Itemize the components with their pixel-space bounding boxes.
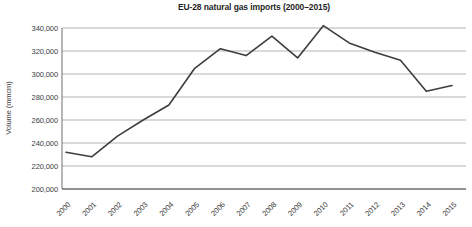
y-tick-label: 280,000 [32, 93, 58, 102]
chart-title: EU-28 natural gas imports (2000–2015) [52, 2, 456, 12]
y-tick-label: 320,000 [32, 47, 58, 56]
x-tick-label: 2012 [363, 200, 381, 218]
y-tick-label: 220,000 [32, 162, 58, 171]
x-tick-label: 2001 [80, 200, 98, 218]
y-tick-label: 260,000 [32, 116, 58, 125]
y-tick-label: 300,000 [32, 70, 58, 79]
x-tick-label: 2006 [209, 200, 227, 218]
x-tick-label: 2011 [338, 200, 355, 217]
x-tick-label: 2004 [157, 200, 175, 218]
x-tick-label: 2010 [312, 200, 330, 218]
y-axis-title: Volume (mmcm) [4, 53, 14, 163]
chart-container: EU-28 natural gas imports (2000–2015) Vo… [0, 0, 472, 227]
y-tick-label: 200,000 [32, 185, 58, 194]
x-tick-label: 2013 [389, 200, 407, 218]
x-tick-label: 2000 [55, 200, 73, 218]
x-tick-label: 2002 [106, 200, 124, 218]
x-tick-label: 2008 [260, 200, 278, 218]
x-tick-label: 2009 [286, 200, 304, 218]
x-tick-label: 2015 [441, 200, 459, 218]
line-chart: 200,000220,000240,000260,000280,000300,0… [0, 0, 472, 227]
x-tick-label: 2007 [235, 200, 253, 218]
x-tick-label: 2005 [183, 200, 201, 218]
x-tick-label: 2003 [132, 200, 150, 218]
y-tick-label: 240,000 [32, 139, 58, 148]
y-tick-label: 340,000 [32, 24, 58, 33]
x-tick-label: 2014 [415, 200, 433, 218]
data-line-series [66, 26, 452, 157]
